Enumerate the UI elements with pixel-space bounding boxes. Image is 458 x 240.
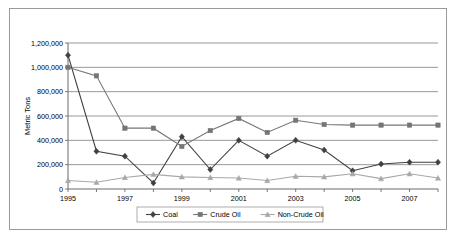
data-point-marker (293, 137, 298, 143)
y-axis-tick-label: 200,000 (37, 160, 63, 169)
data-point-marker (379, 123, 383, 127)
x-axis-tick-label: 2005 (345, 194, 361, 203)
data-point-marker (265, 153, 270, 159)
data-point-marker (65, 52, 70, 58)
series-coal (65, 52, 440, 186)
data-point-marker (94, 148, 99, 154)
y-axis-tick-label: 0 (59, 185, 63, 194)
y-axis-tick-label: 400,000 (37, 136, 63, 145)
series-crude-oil (66, 65, 440, 148)
data-point-marker (208, 128, 212, 132)
data-point-marker (436, 123, 440, 127)
x-axis-tick-label: 1999 (174, 194, 190, 203)
series-non-crude-oil (65, 171, 440, 184)
series-line (68, 67, 438, 146)
legend-marker-square-icon (198, 212, 202, 216)
y-axis-tick-label: 1,200,000 (31, 39, 63, 48)
data-point-marker (94, 74, 98, 78)
data-point-marker (322, 122, 326, 126)
line-chart: 0200,000400,000600,000800,0001,000,0001,… (10, 9, 446, 229)
legend-label-2[interactable]: Non-Crude Oil (278, 210, 324, 219)
y-axis-tick-label: 800,000 (37, 87, 63, 96)
data-point-marker (123, 126, 127, 130)
legend-label-0[interactable]: Coal (163, 210, 178, 219)
data-point-marker (322, 147, 327, 153)
x-axis-tick-label: 1995 (60, 194, 76, 203)
data-point-marker (66, 65, 70, 69)
x-axis-tick-label: 1997 (117, 194, 133, 203)
y-axis-title: Metric Tons (23, 97, 32, 135)
x-axis-tick-label: 2007 (402, 194, 418, 203)
y-axis-tick-label: 1,000,000 (31, 63, 63, 72)
data-point-marker (293, 118, 297, 122)
x-axis-tick-label: 2001 (231, 194, 247, 203)
data-point-marker (350, 123, 354, 127)
data-point-marker (265, 130, 269, 134)
data-point-marker (407, 123, 411, 127)
data-point-marker (151, 126, 155, 130)
chart-frame: 0200,000400,000600,000800,0001,000,0001,… (9, 8, 447, 230)
data-point-marker (237, 116, 241, 120)
x-axis-tick-label: 2003 (288, 194, 304, 203)
data-point-marker (378, 161, 383, 167)
y-axis-tick-label: 600,000 (37, 112, 63, 121)
data-point-marker (180, 144, 184, 148)
legend-label-1[interactable]: Crude Oil (210, 210, 241, 219)
